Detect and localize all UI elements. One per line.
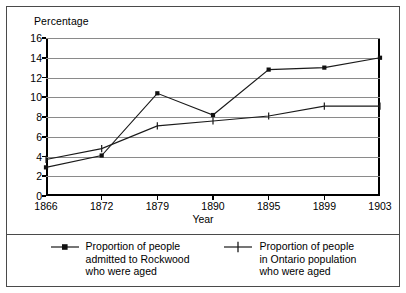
x-tick-label: 1895	[257, 200, 280, 212]
legend-item-rockwood: Proportion of people admitted to Rockwoo…	[50, 240, 190, 286]
legend-label-ontario: Proportion of people in Ontario populati…	[259, 240, 356, 278]
x-tick-label: 1890	[201, 200, 224, 212]
y-tick-label: 14	[30, 53, 42, 64]
x-tick-label: 1903	[368, 200, 391, 212]
legend-label-rockwood: Proportion of people admitted to Rockwoo…	[86, 240, 190, 278]
x-tick-label: 1872	[90, 200, 113, 212]
y-axis-tick-labels: 1614121086420	[20, 38, 42, 196]
plus-marker-icon	[223, 241, 253, 253]
x-tick-label: 1866	[34, 200, 57, 212]
x-tick-label: 1879	[146, 200, 169, 212]
y-tick-label: 16	[30, 33, 42, 44]
x-axis-tick-labels: 1866187218791890189518991903	[46, 38, 380, 218]
chart-legend: Proportion of people admitted to Rockwoo…	[7, 240, 399, 286]
legend-divider	[7, 234, 399, 235]
chart-figure: Percentage 1614121086420 186618721879189…	[0, 0, 406, 293]
y-tick-label: 12	[30, 73, 42, 84]
square-marker-icon	[50, 241, 80, 253]
y-axis-title: Percentage	[34, 15, 89, 27]
legend-item-ontario: Proportion of people in Ontario populati…	[223, 240, 356, 286]
y-tick-label: 10	[30, 92, 42, 103]
x-axis-title: Year	[0, 213, 406, 225]
x-tick-label: 1899	[313, 200, 336, 212]
